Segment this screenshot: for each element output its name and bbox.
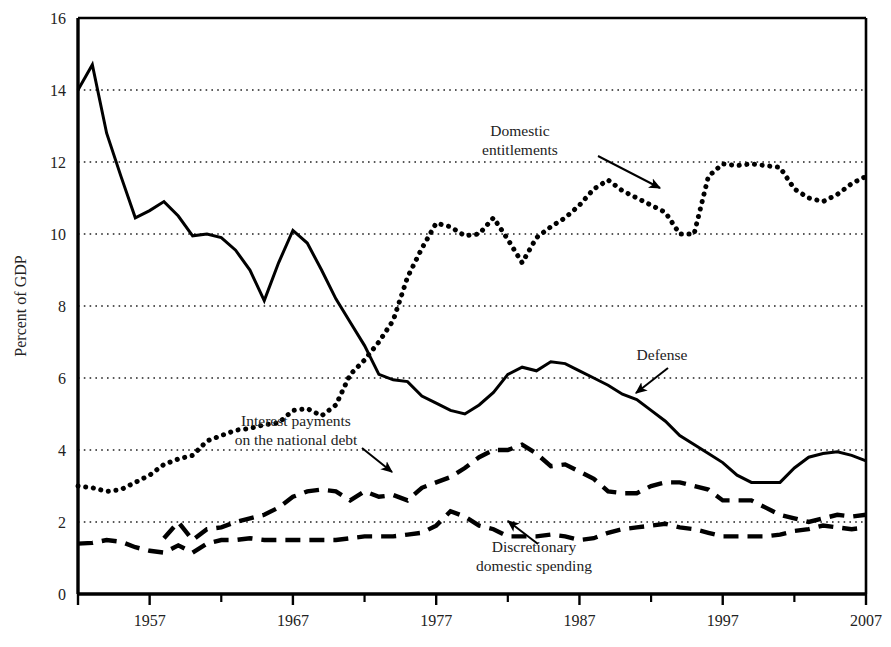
ann-defense-arrow bbox=[636, 368, 668, 393]
ann-entitlements-label: Domesticentitlements bbox=[482, 122, 558, 158]
y-tick-label-2: 2 bbox=[58, 514, 66, 531]
y-axis-title: Percent of GDP bbox=[12, 255, 29, 356]
ann-discretionary-line-1: domestic spending bbox=[476, 557, 592, 574]
y-tick-label-0: 0 bbox=[58, 586, 66, 603]
ann-defense-label: Defense bbox=[637, 346, 688, 363]
x-tick-label-1957: 1957 bbox=[134, 612, 166, 629]
ann-interest-arrow bbox=[362, 448, 392, 472]
ann-entitlements-line-0: Domestic bbox=[490, 122, 550, 139]
y-axis-ticks: 0246810121416 bbox=[50, 10, 66, 603]
series-discretionary-domestic-spending bbox=[78, 511, 866, 552]
y-tick-label-12: 12 bbox=[50, 154, 66, 171]
y-tick-label-8: 8 bbox=[58, 298, 66, 315]
x-axis-ticks: 195719671977198719972007 bbox=[78, 594, 882, 629]
percent-of-gdp-line-chart: 0246810121416 195719671977198719972007 D… bbox=[0, 0, 891, 647]
x-tick-label-1967: 1967 bbox=[277, 612, 309, 629]
x-tick-label-2007: 2007 bbox=[850, 612, 882, 629]
ann-defense-line-0: Defense bbox=[637, 346, 688, 363]
ann-interest-line-1: on the national debt bbox=[235, 431, 358, 448]
x-tick-label-1977: 1977 bbox=[420, 612, 452, 629]
ann-discretionary-label: Discretionarydomestic spending bbox=[476, 538, 592, 574]
y-tick-label-16: 16 bbox=[50, 10, 66, 27]
gridlines bbox=[78, 90, 866, 522]
data-series-layer bbox=[78, 65, 866, 553]
x-tick-label-1987: 1987 bbox=[563, 612, 595, 629]
plot-frame bbox=[78, 18, 866, 594]
y-tick-label-4: 4 bbox=[58, 442, 66, 459]
x-tick-label-1997: 1997 bbox=[707, 612, 739, 629]
series-defense bbox=[78, 65, 866, 483]
chart-figure: 0246810121416 195719671977198719972007 D… bbox=[0, 0, 891, 647]
ann-entitlements-arrow bbox=[598, 156, 660, 188]
y-tick-label-10: 10 bbox=[50, 226, 66, 243]
series-domestic-entitlements bbox=[78, 164, 866, 492]
ann-entitlements-line-1: entitlements bbox=[482, 141, 558, 158]
y-tick-label-6: 6 bbox=[58, 370, 66, 387]
ann-interest-line-0: Interest payments bbox=[241, 412, 351, 429]
y-tick-label-14: 14 bbox=[50, 82, 66, 99]
